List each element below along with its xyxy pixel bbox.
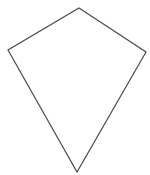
- kite-shape-svg: [0, 0, 150, 175]
- canvas-background: [0, 0, 150, 175]
- drawing-canvas: [0, 0, 150, 175]
